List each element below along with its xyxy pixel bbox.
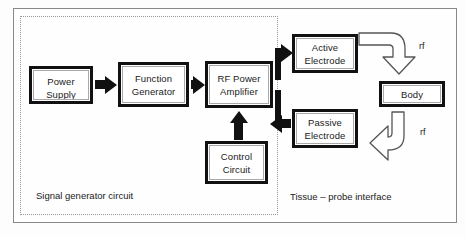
arrow-power-supply-to-function-generator	[95, 80, 106, 89]
block-passive-electrode: Passive Electrode	[292, 109, 358, 148]
label-signal-generator-circuit: Signal generator circuit	[36, 190, 133, 201]
block-active-electrode-inner: Active Electrode	[296, 38, 354, 69]
arrow-rf-amplifier-to-active-electrode	[275, 48, 282, 57]
block-function-generator: Function Generator	[118, 62, 189, 107]
block-control-circuit: Control Circuit	[205, 141, 268, 184]
block-control-circuit-line2: Circuit	[223, 163, 251, 176]
label-rf-bottom: rf	[420, 127, 426, 137]
block-body: Body	[379, 81, 445, 107]
block-body-inner: Body	[383, 85, 441, 103]
block-passive-electrode-line2: Electrode	[304, 129, 345, 142]
label-rf-top: rf	[419, 41, 425, 51]
block-active-electrode-line1: Active	[312, 41, 338, 54]
block-active-electrode: Active Electrode	[292, 34, 358, 73]
arrow-control-circuit-to-rf-amplifier	[234, 122, 243, 140]
block-function-generator-line2: Generator	[132, 85, 176, 98]
block-power-supply: Power Supply	[29, 66, 93, 104]
block-passive-electrode-inner: Passive Electrode	[296, 113, 354, 144]
label-tissue-probe-interface: Tissue – probe interface	[290, 191, 392, 202]
block-rf-power-amplifier-inner: RF Power Amplifier	[209, 65, 269, 104]
block-control-circuit-line1: Control	[221, 150, 252, 163]
block-power-supply-line1: Power	[47, 75, 74, 88]
block-control-circuit-inner: Control Circuit	[209, 145, 264, 180]
block-power-supply-inner: Power Supply	[33, 70, 89, 100]
block-active-electrode-line2: Electrode	[304, 54, 345, 67]
block-passive-electrode-line1: Passive	[308, 116, 342, 129]
curved-arrow-body-to-passive-electrode-icon	[352, 110, 420, 162]
arrow-passive-electrode-to-rf-amplifier	[281, 119, 291, 128]
block-rf-power-amplifier-line2: Amplifier	[220, 85, 258, 98]
block-body-line1: Body	[401, 88, 423, 101]
block-rf-power-amplifier-line1: RF Power	[217, 72, 260, 85]
diagram-canvas: Power Supply Function Generator RF Power…	[0, 0, 466, 237]
block-function-generator-line1: Function	[135, 72, 172, 85]
curved-arrow-active-electrode-to-body-icon	[357, 27, 419, 77]
block-power-supply-line2: Supply	[46, 88, 76, 100]
block-rf-power-amplifier: RF Power Amplifier	[205, 61, 273, 108]
block-function-generator-inner: Function Generator	[122, 66, 185, 103]
arrow-function-generator-to-rf-amplifier	[191, 80, 194, 89]
